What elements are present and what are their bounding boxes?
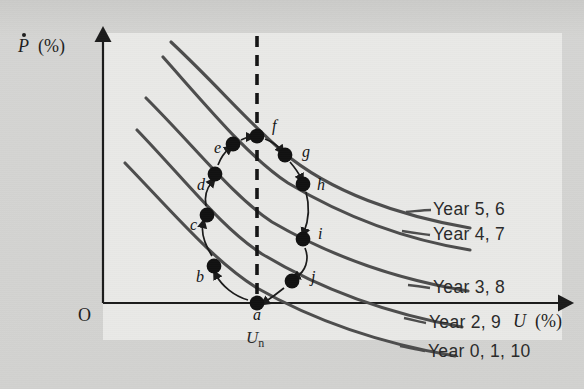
point-label-g: g	[302, 143, 310, 161]
x-axis-label: U (%)	[513, 311, 562, 332]
data-point-b	[207, 259, 222, 274]
data-point-g	[278, 148, 293, 163]
curve-label-year-0-1-10: Year 0, 1, 10	[428, 341, 531, 362]
data-point-i	[296, 232, 311, 247]
y-axis-label: P (%)	[18, 36, 65, 57]
axes-group	[103, 40, 560, 303]
point-label-f: f	[272, 117, 276, 135]
point-label-h: h	[317, 176, 325, 194]
data-point-c	[200, 208, 215, 223]
x-axis-symbol: U	[513, 311, 526, 331]
data-point-d	[208, 167, 223, 182]
curve-label-year-3-8: Year 3, 8	[433, 277, 505, 298]
data-point-f	[250, 129, 265, 144]
p-dot-accent-icon	[22, 33, 26, 37]
data-point-j	[285, 274, 300, 289]
phillips-curve-figure: P (%) U (%) O Un a b c d e f g h i j Yea…	[0, 0, 584, 389]
leader-year-3-8	[408, 285, 430, 288]
arrow-e-to-f	[241, 137, 250, 140]
point-label-d: d	[197, 176, 205, 194]
curve-year-0-1-10	[125, 163, 455, 356]
origin-label: O	[78, 305, 91, 326]
natural-rate-subscript: n	[258, 336, 264, 350]
phillips-curves-group	[125, 42, 470, 356]
y-axis-symbol: P	[18, 36, 29, 56]
data-point-e	[226, 137, 241, 152]
x-axis-unit: (%)	[531, 311, 562, 331]
point-label-c: c	[190, 216, 197, 234]
arrow-h-to-i	[304, 192, 308, 232]
point-label-b: b	[196, 268, 204, 286]
y-axis-unit: (%)	[34, 36, 65, 56]
data-point-h	[296, 177, 311, 192]
curve-label-year-5-6: Year 5, 6	[433, 199, 505, 220]
curve-label-year-4-7: Year 4, 7	[433, 224, 505, 245]
point-label-i: i	[318, 225, 322, 243]
natural-rate-label: Un	[246, 328, 264, 351]
point-label-j: j	[311, 268, 315, 286]
point-label-a: a	[253, 306, 261, 324]
natural-rate-symbol: U	[246, 328, 258, 347]
arrow-c-to-d	[205, 182, 212, 206]
curve-label-year-2-9: Year 2, 9	[429, 312, 501, 333]
leader-year-5-6	[406, 210, 431, 212]
point-label-e: e	[214, 139, 221, 157]
